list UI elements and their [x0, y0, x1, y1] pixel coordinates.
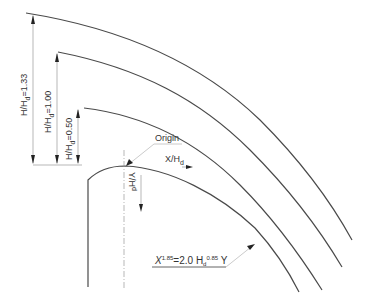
label-y-axis: Y/Hd — [127, 172, 138, 191]
origin-arrow-icon — [126, 159, 133, 166]
spillway-crest — [88, 166, 299, 292]
label-x-axis: X/Hd — [165, 154, 184, 166]
dimension-0.50 — [76, 109, 80, 164]
nappe-curve-1.33 — [26, 13, 352, 240]
nappe-curve-1.00 — [58, 52, 342, 267]
label-head-1.00: H/Hd=1.00 — [43, 91, 55, 133]
spillway-diagram: H/Hd=1.33 H/Hd=1.00 H/Hd=0.50 Origin X/H… — [0, 0, 372, 303]
equation-label: X1.85=2.0 Hd0.85 Y — [154, 255, 228, 267]
label-head-1.33: H/Hd=1.33 — [19, 74, 31, 116]
dimension-1.33 — [31, 15, 35, 164]
x-axis-arrow-icon — [186, 165, 193, 169]
label-origin: Origin — [155, 133, 179, 143]
dimension-1.00 — [55, 53, 59, 164]
y-axis-arrow-icon — [139, 204, 143, 212]
label-head-0.50: H/Hd=0.50 — [64, 118, 76, 160]
